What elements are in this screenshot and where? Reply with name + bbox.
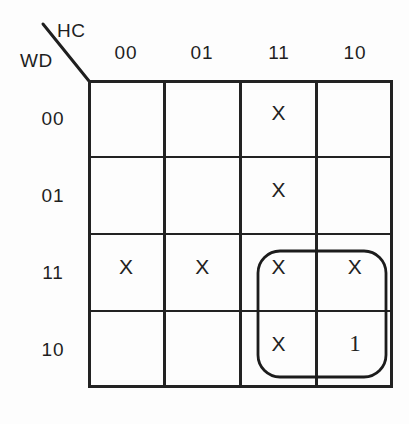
column-header-1: 01 <box>164 42 240 64</box>
kmap-cell[interactable] <box>88 157 164 234</box>
kmap-cell[interactable] <box>164 80 240 157</box>
kmap-cell[interactable]: X <box>241 80 317 157</box>
row-header-2: 11 <box>22 262 84 284</box>
cell-value: X <box>272 102 286 123</box>
kmap-cell[interactable] <box>317 157 393 234</box>
cell-value: X <box>272 256 286 277</box>
column-header-2: 11 <box>241 42 317 64</box>
cell-value: X <box>348 256 362 277</box>
kmap-cell[interactable]: X <box>164 234 240 311</box>
row-header-0: 00 <box>22 108 84 130</box>
kmap-cell[interactable] <box>164 157 240 234</box>
kmap-cell[interactable]: X <box>241 157 317 234</box>
row-header-1: 01 <box>22 185 84 207</box>
row-header-3: 10 <box>22 339 84 361</box>
kmap-grid: X X X X X X X 1 <box>88 80 393 388</box>
cell-value: X <box>195 256 209 277</box>
kmap-cell[interactable]: X <box>241 234 317 311</box>
cell-value: 1 <box>349 332 361 355</box>
cell-value: X <box>119 256 133 277</box>
kmap-cell[interactable] <box>88 311 164 388</box>
kmap-cell[interactable]: X <box>317 234 393 311</box>
corner-diagonal-divider-icon <box>38 18 94 86</box>
column-header-0: 00 <box>88 42 164 64</box>
cell-value: X <box>272 333 286 354</box>
kmap-cell[interactable] <box>88 80 164 157</box>
cell-value: X <box>272 179 286 200</box>
kmap-cell[interactable] <box>317 80 393 157</box>
kmap-cell[interactable] <box>164 311 240 388</box>
kmap-cell[interactable]: X <box>88 234 164 311</box>
kmap-cell[interactable]: X <box>241 311 317 388</box>
column-header-3: 10 <box>317 42 393 64</box>
kmap-cell[interactable]: 1 <box>317 311 393 388</box>
karnaugh-map-diagram: HC WD 00 01 11 10 00 01 11 10 X X X X X … <box>0 0 409 424</box>
